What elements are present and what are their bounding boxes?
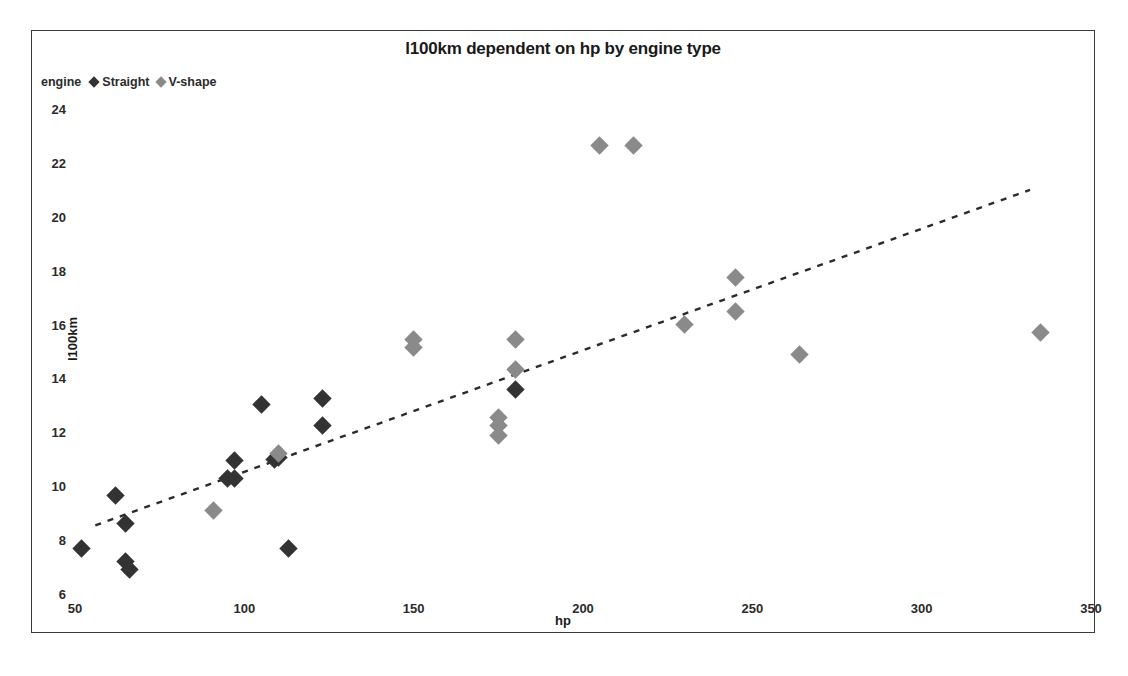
data-point[interactable] — [506, 330, 524, 348]
data-point[interactable] — [73, 539, 91, 557]
data-point[interactable] — [106, 486, 124, 504]
data-point[interactable] — [117, 515, 135, 533]
legend-entry-straight[interactable]: Straight — [90, 75, 149, 89]
chart-title: l100km dependent on hp by engine type — [32, 39, 1094, 59]
y-axis-tick-10: 10 — [52, 479, 66, 494]
data-point[interactable] — [506, 380, 524, 398]
x-axis-label: hp — [32, 613, 1094, 628]
y-axis-tick-24: 24 — [52, 102, 66, 117]
data-point[interactable] — [252, 395, 270, 413]
data-point[interactable] — [591, 136, 609, 154]
y-axis-tick-22: 22 — [52, 155, 66, 170]
diamond-marker-icon — [89, 76, 100, 87]
trendline — [75, 109, 1091, 594]
data-point[interactable] — [726, 302, 744, 320]
chart-legend: engine Straight V-shape — [41, 75, 216, 89]
y-axis-tick-8: 8 — [59, 533, 66, 548]
legend-title: engine — [41, 75, 81, 89]
data-point[interactable] — [205, 501, 223, 519]
data-point[interactable] — [625, 136, 643, 154]
y-axis-tick-12: 12 — [52, 425, 66, 440]
data-point[interactable] — [675, 315, 693, 333]
x-axis-tick-100: 100 — [233, 601, 255, 616]
y-axis-tick-20: 20 — [52, 209, 66, 224]
data-point[interactable] — [225, 451, 243, 469]
x-axis-tick-350: 350 — [1080, 601, 1102, 616]
data-point[interactable] — [313, 416, 331, 434]
data-point[interactable] — [506, 360, 524, 378]
x-axis-tick-300: 300 — [911, 601, 933, 616]
data-point[interactable] — [279, 539, 297, 557]
y-axis-tick-14: 14 — [52, 371, 66, 386]
y-axis-tick-18: 18 — [52, 263, 66, 278]
data-point[interactable] — [726, 268, 744, 286]
legend-label-v-shape: V-shape — [169, 75, 217, 89]
data-point[interactable] — [313, 389, 331, 407]
legend-label-straight: Straight — [102, 75, 149, 89]
y-axis-tick-16: 16 — [52, 317, 66, 332]
data-point[interactable] — [1031, 323, 1049, 341]
x-axis-tick-50: 50 — [68, 601, 82, 616]
plot-area: 681012141618202224 50100150200250300350 — [75, 109, 1091, 594]
legend-entry-v-shape[interactable]: V-shape — [157, 75, 217, 89]
y-axis-tick-6: 6 — [59, 587, 66, 602]
x-axis-tick-250: 250 — [741, 601, 763, 616]
data-point[interactable] — [791, 345, 809, 363]
diamond-marker-icon — [155, 76, 166, 87]
chart-frame: l100km dependent on hp by engine type en… — [31, 30, 1095, 633]
x-axis-tick-150: 150 — [403, 601, 425, 616]
x-axis-tick-200: 200 — [572, 601, 594, 616]
